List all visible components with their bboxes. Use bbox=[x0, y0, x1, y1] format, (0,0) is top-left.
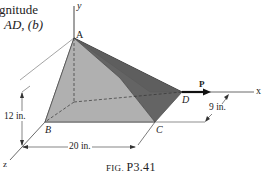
problem-text-line1: gnitude bbox=[0, 2, 38, 17]
dim-20-label: 20 in. bbox=[68, 141, 92, 151]
z-axis bbox=[10, 122, 45, 160]
dim-12-ext bbox=[22, 86, 30, 92]
dim-9-arrow-top bbox=[224, 94, 229, 100]
dim-12-label: 12 in. bbox=[4, 111, 26, 121]
c-extension bbox=[138, 122, 155, 145]
point-D-label: D bbox=[182, 94, 189, 105]
z-axis-label: z bbox=[3, 159, 7, 169]
force-arrow-head bbox=[203, 89, 211, 96]
problem-text-line2: AD, (b) bbox=[4, 17, 43, 32]
x-axis-label: x bbox=[256, 85, 261, 96]
force-P-label: P bbox=[199, 79, 205, 89]
caption-prefix: FIG. bbox=[106, 163, 124, 173]
dim-9-label: 9 in. bbox=[209, 102, 226, 112]
point-B-label: B bbox=[45, 124, 51, 135]
dim-20-arrow-right bbox=[130, 145, 136, 149]
y-axis-label: y bbox=[77, 0, 81, 11]
point-C-label: C bbox=[156, 124, 163, 135]
dim-12-arrow-top bbox=[20, 92, 24, 98]
caption-number: P3.41 bbox=[127, 160, 156, 174]
point-A-label: A bbox=[76, 29, 83, 40]
figure-caption: FIG. P3.41 bbox=[106, 160, 156, 175]
